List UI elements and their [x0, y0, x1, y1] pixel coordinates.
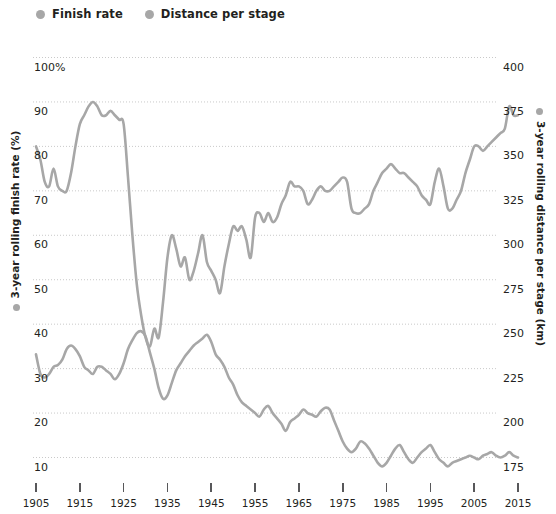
x-axis-tick-label: 1995 — [405, 497, 455, 509]
x-axis-tick-label: 1935 — [142, 497, 192, 509]
x-axis-tick-label: 1985 — [362, 497, 412, 509]
y-axis-right-tick-label: 375 — [503, 105, 524, 118]
y-axis-right-tick-label: 200 — [503, 416, 524, 429]
chart-root: Finish rate Distance per stage 3-year ro… — [0, 0, 556, 514]
x-axis-tick-mark — [298, 483, 300, 492]
x-axis-tick-mark — [430, 483, 432, 492]
x-axis-tick-mark — [35, 483, 37, 492]
x-axis-tick-label: 1965 — [274, 497, 324, 509]
y-axis-left-tick-label: 40 — [34, 327, 48, 340]
y-axis-right-tick-label: 300 — [503, 238, 524, 251]
series-layer — [0, 0, 556, 514]
x-axis-tick-label: 1925 — [99, 497, 149, 509]
x-axis-tick-label: 1975 — [318, 497, 368, 509]
y-axis-left-tick-label: 50 — [34, 283, 48, 296]
x-axis-tick-label: 2005 — [449, 497, 499, 509]
x-axis-tick-label: 1945 — [186, 497, 236, 509]
x-axis-tick-mark — [342, 483, 344, 492]
series-line-finish-rate — [36, 102, 518, 347]
x-axis-tick-label: 1955 — [230, 497, 280, 509]
x-axis-tick-label: 1915 — [55, 497, 105, 509]
y-axis-right-tick-label: 250 — [503, 327, 524, 340]
x-axis-tick-mark — [123, 483, 125, 492]
y-axis-right-tick-label: 350 — [503, 149, 524, 162]
x-axis-tick-mark — [473, 483, 475, 492]
x-axis-tick-label: 2015 — [493, 497, 543, 509]
y-axis-left-tick-label: 10 — [34, 461, 48, 474]
y-axis-left-tick-label: 80 — [34, 149, 48, 162]
y-axis-left-tick-label: 100% — [34, 61, 65, 74]
y-axis-right-tick-label: 275 — [503, 283, 524, 296]
y-axis-left-tick-label: 30 — [34, 372, 48, 385]
y-axis-right-tick-label: 225 — [503, 372, 524, 385]
x-axis-tick-mark — [386, 483, 388, 492]
x-axis-tick-mark — [254, 483, 256, 492]
y-axis-left-tick-label: 70 — [34, 194, 48, 207]
plot-area: 100%908070605040302010 40037535032530027… — [0, 0, 556, 514]
y-axis-right-tick-label: 400 — [503, 61, 524, 74]
series-line-distance-per-stage — [36, 331, 518, 466]
x-axis-tick-mark — [517, 483, 519, 492]
y-axis-right-tick-label: 175 — [503, 461, 524, 474]
y-axis-right-tick-label: 325 — [503, 194, 524, 207]
x-axis-tick-mark — [167, 483, 169, 492]
y-axis-left-tick-label: 60 — [34, 238, 48, 251]
x-axis-tick-mark — [210, 483, 212, 492]
x-axis-tick-label: 1905 — [11, 497, 61, 509]
y-axis-left-tick-label: 20 — [34, 416, 48, 429]
y-axis-left-tick-label: 90 — [34, 105, 48, 118]
x-axis-tick-mark — [79, 483, 81, 492]
